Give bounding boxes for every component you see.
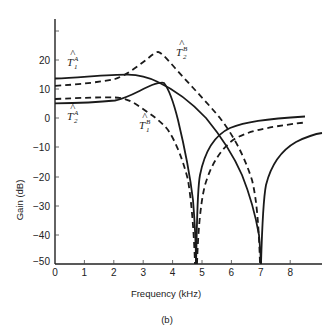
x-tick-label: 8 — [287, 267, 293, 278]
svg-text:T: T — [139, 119, 146, 131]
x-tick-label: 4 — [170, 267, 176, 278]
x-tick-label: 1 — [82, 267, 88, 278]
y-tick-label: −10 — [33, 142, 50, 153]
gain-frequency-chart: 20 10 0 −10 −20 −30 −40 −50 0 1 2 3 4 5 … — [0, 0, 335, 334]
label-t2a: ^ T A 2 — [67, 101, 79, 125]
label-t1a: ^ T A 1 — [67, 47, 79, 71]
label-t2b: ^ T B 2 — [176, 37, 188, 61]
y-tick-label: −40 — [33, 230, 50, 241]
dashed-curves — [55, 52, 306, 264]
label-t1b: ^ T B 1 — [139, 110, 151, 134]
y-tick-label: 10 — [39, 84, 51, 95]
svg-text:1: 1 — [146, 126, 150, 134]
x-tick-label: 7 — [258, 267, 264, 278]
svg-text:T: T — [67, 110, 74, 122]
curve-stopband-dashed-1 — [197, 122, 306, 264]
svg-text:B: B — [146, 118, 151, 126]
svg-text:1: 1 — [74, 63, 78, 71]
svg-text:2: 2 — [74, 117, 78, 125]
svg-text:2: 2 — [183, 53, 187, 61]
curve-stopband-solid-2 — [261, 133, 322, 264]
x-axis-title: Frequency (kHz) — [131, 288, 201, 299]
x-tick-label: 0 — [52, 267, 58, 278]
y-tick-label: −50 — [33, 256, 50, 267]
y-tick-label: 0 — [44, 113, 50, 124]
svg-text:A: A — [73, 109, 79, 117]
y-axis-title: Gain (dB) — [14, 180, 25, 221]
axes — [55, 19, 322, 264]
x-tick-label: 3 — [140, 267, 146, 278]
y-tick-labels: 20 10 0 −10 −20 −30 −40 −50 — [33, 55, 50, 267]
curve-labels: ^ T A 1 ^ T A 2 ^ T B 2 ^ T B 1 — [67, 37, 188, 134]
x-tick-label: 5 — [199, 267, 205, 278]
y-tick-label: 20 — [39, 55, 51, 66]
x-tick-labels: 0 1 2 3 4 5 6 7 8 — [52, 267, 293, 278]
x-tick-label: 2 — [111, 267, 117, 278]
svg-text:T: T — [67, 56, 74, 68]
y-tick-label: −20 — [33, 172, 50, 183]
svg-text:T: T — [176, 46, 183, 58]
curves — [55, 75, 322, 264]
svg-text:A: A — [73, 55, 79, 63]
curve-stopband-solid-1 — [196, 117, 305, 265]
y-tick-label: −30 — [33, 201, 50, 212]
svg-text:B: B — [183, 45, 188, 53]
figure-caption: (b) — [161, 314, 173, 325]
x-tick-label: 6 — [229, 267, 235, 278]
